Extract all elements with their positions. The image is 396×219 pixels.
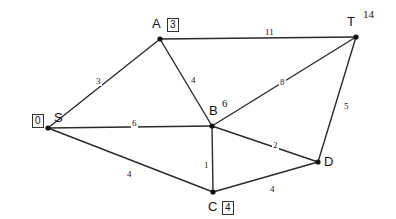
node-distance-t: 14 bbox=[363, 9, 374, 20]
node-label-d: D bbox=[324, 155, 333, 168]
node-label-c: C bbox=[208, 200, 217, 213]
edge-s-c bbox=[48, 128, 213, 192]
edge-weight-t-d: 5 bbox=[343, 102, 350, 111]
node-distance-c: 4 bbox=[222, 201, 234, 215]
edge-b-c bbox=[212, 126, 213, 192]
edge-s-b bbox=[48, 126, 212, 128]
edge-weight-a-t: 11 bbox=[264, 28, 275, 37]
edge-weight-c-d: 4 bbox=[269, 185, 276, 194]
edge-s-a bbox=[48, 39, 160, 128]
edge-weight-a-b: 4 bbox=[190, 76, 197, 85]
edge-weight-s-a: 3 bbox=[95, 77, 102, 86]
edge-weight-b-c: 1 bbox=[203, 161, 210, 170]
edge-a-b bbox=[160, 39, 212, 126]
edge-weight-b-t: 8 bbox=[279, 78, 286, 87]
edge-t-d bbox=[318, 37, 356, 162]
edge-c-d bbox=[213, 162, 318, 192]
node-dot-c[interactable] bbox=[210, 189, 215, 194]
node-distance-s: 0 bbox=[32, 114, 44, 128]
edge-weight-s-c: 4 bbox=[126, 170, 133, 179]
node-dot-a[interactable] bbox=[157, 36, 162, 41]
graph-diagram-canvas: 36411481245 S0A3B6C4DT14 bbox=[0, 0, 396, 219]
nodes-layer bbox=[45, 34, 358, 194]
node-distance-b: 6 bbox=[222, 98, 228, 109]
node-dot-t[interactable] bbox=[353, 34, 358, 39]
edges-layer bbox=[48, 37, 356, 192]
node-label-a: A bbox=[152, 17, 161, 30]
node-dot-s[interactable] bbox=[45, 125, 50, 130]
node-label-b: B bbox=[209, 104, 218, 117]
edge-weight-s-b: 6 bbox=[131, 119, 138, 128]
edge-b-d bbox=[212, 126, 318, 162]
node-label-s: S bbox=[54, 111, 63, 124]
node-distance-a: 3 bbox=[167, 18, 179, 32]
node-dot-d[interactable] bbox=[315, 159, 320, 164]
edge-weight-b-d: 2 bbox=[272, 141, 279, 150]
node-label-t: T bbox=[347, 15, 355, 28]
edge-a-t bbox=[160, 37, 356, 39]
node-dot-b[interactable] bbox=[209, 123, 214, 128]
